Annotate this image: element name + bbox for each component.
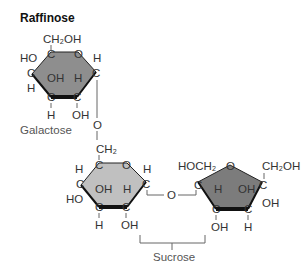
fructose-c3: C [212, 203, 220, 215]
glucose-c4: C [76, 178, 84, 190]
galactose-label: Galactose [20, 124, 72, 136]
galactose-h-bottom: H [47, 109, 55, 121]
galactose-c5: C [47, 48, 55, 60]
sucrose-label: Sucrose [153, 251, 195, 263]
galactose-c3: C [47, 91, 55, 103]
galactose-inner-oh: OH [47, 72, 64, 84]
galactose-ch2oh: CH₂OH [43, 33, 81, 45]
glucose-c3: C [95, 201, 103, 213]
diagram-title: Raffinose [20, 11, 75, 25]
glucose-h-right: H [143, 163, 151, 175]
galactose-inner-h: H [74, 72, 82, 84]
galactose-c1: C [92, 67, 100, 79]
fructose-c2: C [194, 179, 202, 191]
galactose-c2: C [73, 91, 81, 103]
fructose-inner-h: H [214, 183, 222, 195]
glucose-h-left: H [75, 163, 83, 175]
glucose-c1: C [142, 178, 150, 190]
fructose-c5: C [259, 179, 267, 191]
fructose-inner-oh: OH [238, 183, 255, 195]
galactose-oh-bottom: OH [72, 109, 89, 121]
sucrose-bracket [140, 235, 205, 243]
fructose-ring-o: O [226, 160, 235, 172]
glucose-c2: C [122, 201, 130, 213]
glucose-ring [81, 163, 146, 207]
glucose-inner-oh: OH [95, 183, 112, 195]
glycosidic-o-2: O [167, 189, 176, 201]
glucose-inner-h: H [123, 183, 131, 195]
galactose-h-right: H [93, 52, 101, 64]
fructose-c4: C [244, 203, 252, 215]
raffinose-diagram: Raffinose CH₂OH C O HO C H OH H C C H OH… [0, 0, 308, 272]
galactose-c4: C [27, 67, 35, 79]
fructose-ch2oh: CH₂OH [262, 160, 300, 172]
fructose-oh-bottom: OH [211, 221, 228, 233]
fructose-h-bottom: H [244, 221, 252, 233]
glucose-h-bottom: H [95, 219, 103, 231]
fructose-oh-right: OH [262, 197, 279, 209]
glycosidic-o-1: O [93, 119, 102, 131]
galactose-ho: HO [20, 52, 37, 64]
glucose-oh-bottom: OH [121, 219, 138, 231]
galactose-h-left: H [27, 82, 35, 94]
fructose-hoch2: HOCH₂ [178, 160, 216, 172]
glucose-c5: C [95, 159, 103, 171]
glucose-ring-o: O [122, 159, 131, 171]
glucose-ho: HO [66, 193, 83, 205]
glucose-ch2: CH₂ [96, 143, 117, 155]
bond [147, 190, 164, 195]
galactose-ring-o: O [74, 48, 83, 60]
